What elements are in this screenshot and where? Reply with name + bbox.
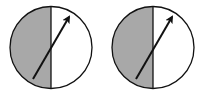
shaded-half (10, 7, 51, 89)
diagram-canvas (0, 0, 202, 95)
diagram-svg (0, 0, 202, 95)
shaded-half (112, 7, 153, 89)
circle-diagram-2 (112, 7, 194, 89)
circle-diagram-1 (10, 7, 92, 89)
